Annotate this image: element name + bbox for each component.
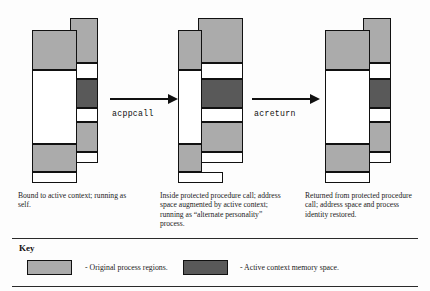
key-divider-top bbox=[12, 238, 418, 239]
key-title: Key bbox=[19, 243, 35, 253]
state-2-narrow-seg-light-low bbox=[178, 144, 202, 172]
arrow-acreturn-label: acreturn bbox=[254, 109, 296, 118]
process-memory-diagram: acppcall acreturn Bound to bbox=[0, 0, 430, 291]
state-2-narrow-seg-light-top bbox=[178, 30, 202, 70]
arrow-acreturn-line bbox=[252, 98, 310, 100]
caption-state-3: Returned from protected procedure call; … bbox=[305, 191, 423, 219]
arrow-acreturn-head bbox=[310, 94, 320, 104]
state-2-wide-seg-white-3 bbox=[198, 152, 243, 163]
key-divider-bottom bbox=[12, 286, 418, 287]
key-label-active-context-memory-space: - Active context memory space. bbox=[240, 263, 339, 272]
state-1-wide-seg-light-top bbox=[32, 30, 77, 70]
state-3-wide-seg-light-top bbox=[325, 30, 370, 70]
caption-state-2: Inside protected procedure call; address… bbox=[160, 191, 288, 229]
arrow-acppcall-head bbox=[168, 94, 178, 104]
arrow-acppcall-line bbox=[110, 98, 168, 100]
state-1-wide-seg-light-low bbox=[32, 144, 77, 172]
key-swatch-original-process-regions bbox=[27, 260, 72, 275]
key-label-original-process-regions: - Original process regions. bbox=[85, 263, 168, 272]
state-2-wide-seg-white-1 bbox=[198, 63, 243, 79]
state-2-narrow-seg-white-bottom bbox=[178, 172, 223, 183]
state-3-wide-seg-white-mid bbox=[325, 70, 370, 144]
state-1-wide-seg-white-mid bbox=[32, 70, 77, 144]
arrow-acppcall-label: acppcall bbox=[112, 109, 154, 118]
state-2-narrow-seg-white-mid bbox=[178, 70, 202, 144]
state-2-wide-seg-dark bbox=[198, 79, 243, 108]
state-3-wide-seg-light-low bbox=[325, 144, 370, 172]
state-2-wide-seg-light-low bbox=[198, 122, 243, 152]
key-swatch-active-context-memory-space bbox=[183, 260, 228, 275]
caption-state-1: Bound to active context; running as self… bbox=[18, 191, 138, 210]
state-3-wide-seg-white-bottom bbox=[325, 172, 370, 183]
state-2-wide-seg-light-top bbox=[198, 18, 243, 63]
state-2-wide-seg-white-2 bbox=[198, 108, 243, 122]
state-1-wide-seg-white-bottom bbox=[32, 172, 77, 183]
